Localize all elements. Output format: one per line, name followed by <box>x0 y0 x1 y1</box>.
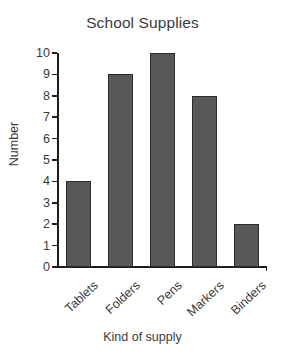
y-axis-label: Number <box>7 109 21 179</box>
x-tick-label-binders: Binders <box>229 279 269 317</box>
y-tick-mark <box>52 181 57 183</box>
y-tick-mark <box>52 116 57 118</box>
bar-tablets <box>66 181 91 267</box>
y-tick-mark <box>52 245 57 247</box>
x-tick-label-tablets: Tablets <box>63 279 100 315</box>
y-tick-label: 6 <box>43 132 50 145</box>
bar-chart-figure: School Supplies Number 012345678910 Tabl… <box>0 0 285 359</box>
y-tick-mark <box>52 202 57 204</box>
y-axis-line <box>57 53 59 267</box>
y-tick-mark <box>52 138 57 140</box>
x-axis-end-tick <box>266 266 268 271</box>
x-tick-label-folders: Folders <box>104 279 143 317</box>
y-tick-label: 2 <box>43 218 50 231</box>
x-axis-label: Kind of supply <box>0 330 285 344</box>
bar-pens <box>150 53 175 267</box>
y-tick-label: 7 <box>43 111 50 124</box>
y-tick-label: 4 <box>43 175 50 188</box>
bar-binders <box>234 224 259 267</box>
x-tick-label-pens: Pens <box>155 279 184 308</box>
bar-folders <box>108 74 133 267</box>
plot-area: 012345678910 <box>57 53 267 267</box>
y-tick-label: 10 <box>36 47 50 60</box>
y-tick-mark <box>52 52 57 54</box>
y-tick-mark <box>52 74 57 76</box>
x-tick-label-markers: Markers <box>185 279 227 319</box>
y-tick-label: 0 <box>43 261 50 274</box>
chart-title: School Supplies <box>0 14 285 32</box>
y-tick-label: 5 <box>43 154 50 167</box>
y-tick-mark <box>52 266 57 268</box>
y-tick-label: 1 <box>43 239 50 252</box>
y-tick-label: 9 <box>43 68 50 81</box>
y-tick-label: 8 <box>43 90 50 103</box>
y-tick-mark <box>52 95 57 97</box>
y-tick-mark <box>52 159 57 161</box>
y-tick-label: 3 <box>43 197 50 210</box>
bar-markers <box>192 96 217 267</box>
y-tick-mark <box>52 223 57 225</box>
